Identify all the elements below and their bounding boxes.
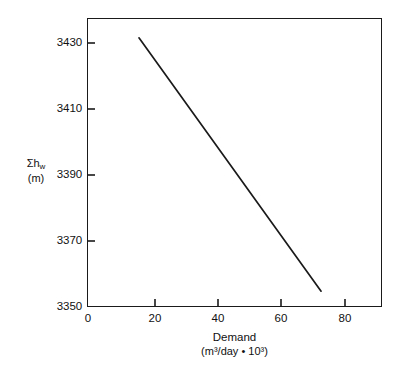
y-tick-label-3350: 3350 xyxy=(36,301,82,313)
chart-figure: 3430 3410 3390 3370 3350 0 20 40 60 80 Σ… xyxy=(0,0,401,371)
x-axis-title-text: Demand xyxy=(213,331,256,343)
x-tick-label-40: 40 xyxy=(198,312,238,324)
y-tick-label-3370: 3370 xyxy=(36,235,82,247)
y-tick-label-3430: 3430 xyxy=(36,37,82,49)
plot-area xyxy=(87,18,382,307)
x-axis-title-units: (m³/day • 10³) xyxy=(87,344,382,358)
x-tick-label-80: 80 xyxy=(325,312,365,324)
data-line-system-head xyxy=(139,38,321,291)
y-axis-ticks xyxy=(87,43,95,241)
y-axis-title: Σhw(m) xyxy=(12,157,60,184)
y-axis-title-symbol: Σh xyxy=(27,157,40,169)
y-tick-label-3410: 3410 xyxy=(36,103,82,115)
x-tick-label-20: 20 xyxy=(135,312,175,324)
x-tick-label-0: 0 xyxy=(68,312,108,324)
y-axis-title-subscript: w xyxy=(40,162,46,171)
y-axis-title-units: (m) xyxy=(12,172,60,185)
x-tick-label-60: 60 xyxy=(261,312,301,324)
x-axis-title: Demand(m³/day • 10³) xyxy=(87,330,382,358)
x-axis-ticks xyxy=(155,299,345,307)
